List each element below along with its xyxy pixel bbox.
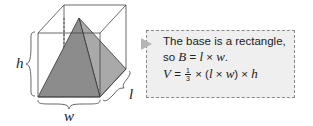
note-line-3-formula: V = 13 × (l × w) × h <box>163 66 286 82</box>
one-third-fraction: 13 <box>185 67 191 82</box>
length-label: l <box>129 86 133 103</box>
note-line-1: The base is a rectangle, <box>163 34 286 49</box>
note-line-2: so B = l × w. <box>163 49 286 65</box>
pointer-arrow-icon <box>141 38 152 50</box>
width-label: w <box>64 108 74 125</box>
height-label: h <box>16 55 24 72</box>
explanation-callout: The base is a rectangle, so B = l × w. V… <box>146 30 295 98</box>
height-brace <box>26 32 35 96</box>
